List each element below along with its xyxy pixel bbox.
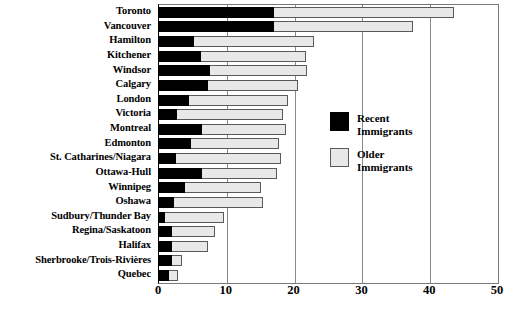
bar-row[interactable] (159, 224, 498, 239)
chart-legend: Recent ImmigrantsOlder Immigrants (330, 112, 450, 185)
bar-segment-recent-immigrants (159, 255, 172, 266)
bar-segment-recent-immigrants (159, 7, 274, 18)
category-label: Windsor (0, 63, 155, 78)
bar-segment-older-immigrants (172, 226, 215, 237)
x-axis: 01020304050 (158, 284, 497, 306)
bar-segment-older-immigrants (191, 138, 279, 149)
bar-segment-recent-immigrants (159, 36, 194, 47)
category-axis: TorontoVancouverHamiltonKitchenerWindsor… (0, 4, 155, 282)
bar-stack (159, 153, 281, 164)
bar-segment-older-immigrants (177, 109, 283, 120)
x-tick-label: 10 (220, 284, 233, 297)
bar-row[interactable] (159, 268, 498, 283)
category-label: Montreal (0, 121, 155, 136)
bar-row[interactable] (159, 34, 498, 49)
bar-stack (159, 21, 413, 32)
category-label: Hamilton (0, 33, 155, 48)
legend-entry[interactable]: Older Immigrants (330, 148, 450, 173)
bar-segment-older-immigrants (185, 182, 261, 193)
bar-stack (159, 36, 314, 47)
bar-stack (159, 241, 208, 252)
x-tick-label: 20 (287, 284, 300, 297)
bar-stack (159, 226, 215, 237)
legend-swatch-older (330, 148, 349, 167)
category-label: Toronto (0, 4, 155, 19)
bar-row[interactable] (159, 93, 498, 108)
bar-segment-older-immigrants (201, 51, 306, 62)
bar-segment-recent-immigrants (159, 241, 172, 252)
bar-segment-older-immigrants (274, 7, 454, 18)
bar-row[interactable] (159, 195, 498, 210)
bar-stack (159, 7, 454, 18)
bar-segment-older-immigrants (176, 153, 281, 164)
bar-stack (159, 109, 283, 120)
category-label: Quebec (0, 267, 155, 282)
bar-segment-older-immigrants (274, 21, 413, 32)
bar-chart: TorontoVancouverHamiltonKitchenerWindsor… (0, 0, 508, 311)
bar-stack (159, 138, 279, 149)
bar-stack (159, 51, 306, 62)
bar-row[interactable] (159, 239, 498, 254)
category-label: Kitchener (0, 48, 155, 63)
bar-segment-older-immigrants (208, 80, 298, 91)
category-label: London (0, 92, 155, 107)
bar-stack (159, 65, 307, 76)
bar-stack (159, 197, 263, 208)
category-label: Sudbury/Thunder Bay (0, 209, 155, 224)
bar-stack (159, 80, 298, 91)
legend-label: Older Immigrants (357, 148, 441, 173)
x-tick-label: 0 (155, 284, 161, 297)
bar-stack (159, 95, 288, 106)
bar-row[interactable] (159, 49, 498, 64)
bar-stack (159, 124, 286, 135)
category-label: Halifax (0, 238, 155, 253)
category-label: Victoria (0, 106, 155, 121)
bar-segment-recent-immigrants (159, 168, 202, 179)
bar-stack (159, 270, 178, 281)
bar-segment-recent-immigrants (159, 95, 189, 106)
x-tick-label: 50 (491, 284, 504, 297)
bar-row[interactable] (159, 78, 498, 93)
legend-entry[interactable]: Recent Immigrants (330, 112, 450, 137)
category-label: Ottawa-Hull (0, 165, 155, 180)
bar-segment-recent-immigrants (159, 226, 172, 237)
category-label: Winnipeg (0, 180, 155, 195)
bar-row[interactable] (159, 210, 498, 225)
bar-row[interactable] (159, 254, 498, 269)
bar-segment-recent-immigrants (159, 21, 274, 32)
legend-label: Recent Immigrants (357, 112, 441, 137)
bar-segment-older-immigrants (202, 168, 277, 179)
bar-segment-older-immigrants (174, 197, 263, 208)
category-label: Vancouver (0, 19, 155, 34)
bar-segment-recent-immigrants (159, 65, 210, 76)
bar-segment-recent-immigrants (159, 153, 176, 164)
bar-segment-recent-immigrants (159, 182, 185, 193)
bar-segment-older-immigrants (172, 255, 182, 266)
x-tick-label: 30 (355, 284, 368, 297)
bar-stack (159, 255, 182, 266)
bar-stack (159, 182, 261, 193)
bar-segment-recent-immigrants (159, 270, 169, 281)
bar-row[interactable] (159, 64, 498, 79)
legend-swatch-recent (330, 112, 349, 131)
category-label: Sherbrooke/Trois-Rivières (0, 253, 155, 268)
category-label: Edmonton (0, 136, 155, 151)
bar-segment-older-immigrants (202, 124, 286, 135)
bar-segment-older-immigrants (210, 65, 307, 76)
bar-row[interactable] (159, 20, 498, 35)
bar-segment-older-immigrants (194, 36, 314, 47)
category-label: Calgary (0, 77, 155, 92)
bar-segment-recent-immigrants (159, 51, 201, 62)
bar-segment-recent-immigrants (159, 80, 208, 91)
bar-stack (159, 168, 277, 179)
category-label: Regina/Saskatoon (0, 223, 155, 238)
x-tick-label: 40 (423, 284, 436, 297)
bar-segment-recent-immigrants (159, 109, 177, 120)
bar-segment-recent-immigrants (159, 124, 202, 135)
category-label: St. Catharines/Niagara (0, 150, 155, 165)
bar-segment-older-immigrants (165, 212, 224, 223)
bar-segment-older-immigrants (189, 95, 288, 106)
bar-row[interactable] (159, 5, 498, 20)
bar-segment-recent-immigrants (159, 138, 191, 149)
bar-segment-older-immigrants (172, 241, 208, 252)
